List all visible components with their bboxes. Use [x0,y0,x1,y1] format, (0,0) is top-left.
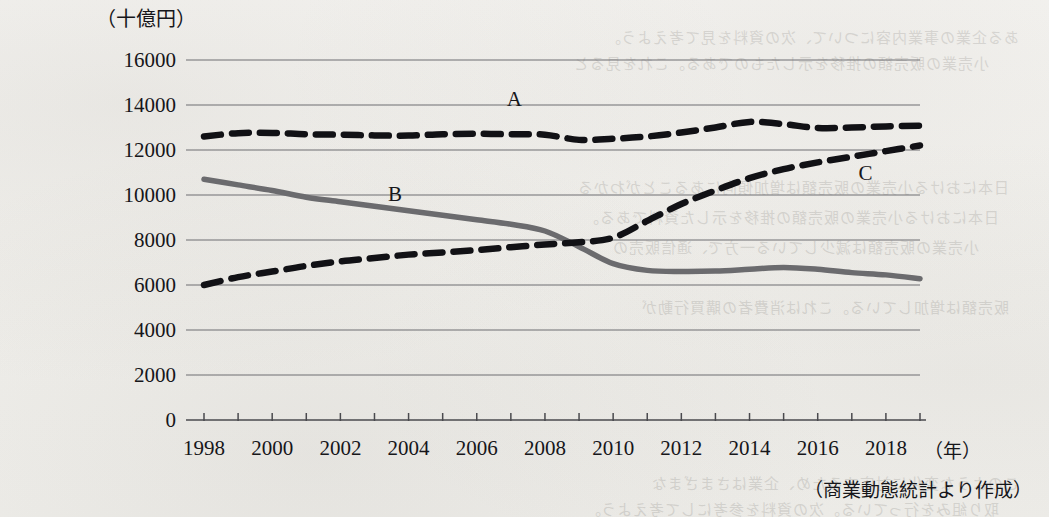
y-axis-tick-label: 8000 [134,228,176,252]
y-axis-tick-label: 6000 [134,273,176,297]
x-axis-tick-label: 2008 [524,436,566,460]
x-axis-tick-label: 2000 [251,436,293,460]
x-axis-tick-labels: 1998200020022004200620082010201220142016… [183,436,907,460]
line-chart: 1600014000120001000080006000400020000 19… [0,0,1049,517]
y-axis-unit-label: （十億円） [96,8,196,30]
x-axis-tick-label: 2014 [729,436,772,460]
series-line-a [204,122,920,140]
series-label-a: A [507,87,523,111]
x-axis-tick-label: 2012 [660,436,702,460]
y-axis-tick-label: 16000 [124,48,177,72]
series-label-c: C [858,161,872,185]
series-label-b: B [388,182,402,206]
y-axis-tick-label: 10000 [124,183,177,207]
data-series [204,122,920,285]
series-line-c [204,146,920,286]
x-axis-tick-label: 2006 [456,436,498,460]
chart-page: ある企業の事業内容について、次の資料を見て考えよう。 小売業の販売額の推移を示し… [0,0,1049,517]
y-axis-tick-label: 0 [166,408,177,432]
y-axis-tick-labels: 1600014000120001000080006000400020000 [124,48,177,432]
x-axis-tick-label: 1998 [183,436,225,460]
x-axis-tick-label: 2016 [797,436,839,460]
x-axis-tick-label: 2002 [319,436,361,460]
y-axis-tick-label: 14000 [124,93,177,117]
source-note: （商業動態統計より作成） [804,480,1032,501]
x-axis-year-label: （年） [924,441,981,462]
x-axis-tick-label: 2004 [388,436,431,460]
y-axis-tick-label: 12000 [124,138,177,162]
gridlines [186,60,920,375]
y-axis-tick-label: 4000 [134,318,176,342]
y-axis-tick-label: 2000 [134,363,176,387]
x-axis-tick-label: 2018 [865,436,907,460]
x-axis-tick-label: 2010 [592,436,634,460]
chart-svg-container: 1600014000120001000080006000400020000 19… [0,0,1049,517]
